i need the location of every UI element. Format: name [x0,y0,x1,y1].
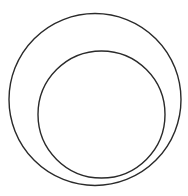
nested-circles-diagram [0,0,188,196]
inner-circle [38,51,165,178]
outer-circle [9,14,181,186]
